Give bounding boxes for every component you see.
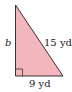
label-vertical-leg: b [5,37,11,48]
label-horizontal-leg: 9 yd [29,78,51,89]
triangle-diagram: b 15 yd 9 yd [0,0,72,92]
label-hypotenuse: 15 yd [44,37,72,48]
